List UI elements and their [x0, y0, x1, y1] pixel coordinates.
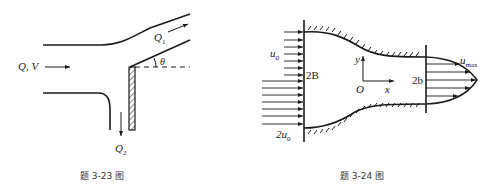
- umax-label: umax: [460, 55, 478, 69]
- u0-label: u0: [270, 48, 279, 62]
- two-u0-label: 2u0: [276, 129, 291, 143]
- q1-arrow: [168, 24, 188, 32]
- caption-3-24: 题 3-24 图: [340, 172, 384, 181]
- upper-hatch: [308, 26, 419, 56]
- x-axis-label: x: [385, 84, 390, 95]
- caption-3-23: 题 3-23 图: [80, 172, 124, 181]
- inlet-arrows-u0: [284, 32, 303, 75]
- outlet-width-label: 2b: [412, 75, 423, 86]
- q1-label: Q1: [154, 32, 165, 46]
- q2-label: Q2: [115, 143, 126, 157]
- lower-wall: [304, 104, 426, 128]
- lower-hatch: [308, 103, 419, 134]
- figure-3-23: [43, 14, 190, 136]
- inlet-arrows-2u0: [262, 81, 303, 124]
- figure-3-24: [262, 20, 477, 142]
- origin-label: O: [356, 84, 364, 95]
- plate: [129, 67, 135, 130]
- inlet-width-label: 2B: [306, 70, 319, 81]
- y-axis-label: y: [355, 54, 360, 65]
- upper-wall: [43, 14, 190, 45]
- angle-label: θ: [160, 57, 165, 67]
- angle-arc: [154, 58, 156, 67]
- lower-wall: [43, 93, 110, 130]
- diagram-canvas: [0, 0, 500, 186]
- inflow-label: Q, V: [18, 61, 38, 72]
